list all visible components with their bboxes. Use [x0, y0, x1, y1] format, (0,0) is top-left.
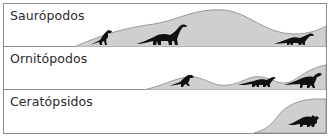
- band-label: Ceratópsidos: [10, 94, 93, 109]
- diagram-frame: Saurópodos Ornitópodos: [3, 3, 327, 134]
- band-ornithopods: Ornitópodos: [4, 47, 326, 90]
- band-label: Ornitópodos: [10, 51, 87, 66]
- band-sauropods: Saurópodos: [4, 4, 326, 47]
- hill-shape: [254, 99, 326, 133]
- band-label: Saurópodos: [10, 8, 85, 23]
- hill-shape: [144, 65, 326, 90]
- band-ceratopsids: Ceratópsidos: [4, 90, 326, 133]
